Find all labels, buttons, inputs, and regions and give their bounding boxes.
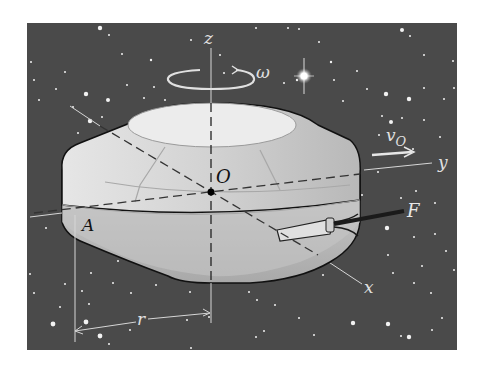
spacecraft-diagram: z ω vO y O A F x r bbox=[0, 0, 484, 370]
radius-label: r bbox=[137, 309, 146, 329]
origin-point bbox=[208, 189, 215, 196]
origin-label: O bbox=[216, 166, 231, 187]
omega-label: ω bbox=[256, 62, 270, 82]
point-a-label: A bbox=[80, 215, 94, 235]
z-axis-label: z bbox=[203, 28, 214, 48]
y-axis-label: y bbox=[437, 152, 448, 172]
force-label: F bbox=[406, 200, 421, 221]
spacecraft-top-cap bbox=[128, 103, 296, 147]
x-axis-label: x bbox=[364, 277, 374, 297]
